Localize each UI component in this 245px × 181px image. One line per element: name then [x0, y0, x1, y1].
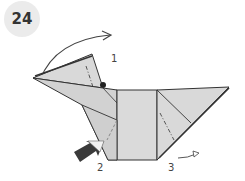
origami-diagram: [0, 0, 245, 181]
label-1: 1: [111, 53, 117, 64]
pivot-point-icon: [100, 82, 106, 88]
label-2: 2: [97, 162, 103, 173]
body-center: [117, 90, 157, 160]
label-3: 3: [168, 162, 174, 173]
